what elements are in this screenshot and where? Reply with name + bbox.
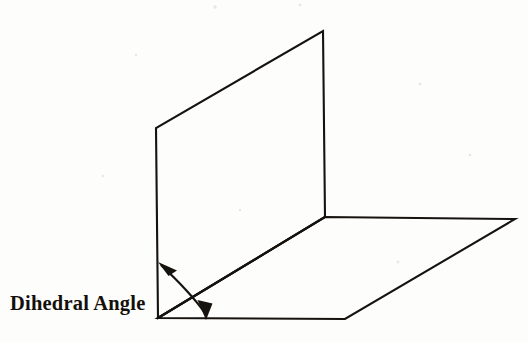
dihedral-angle-figure: Dihedral Angle [0, 0, 528, 343]
vertical-plane [156, 31, 325, 318]
scan-speckles [35, 4, 471, 301]
figure-caption: Dihedral Angle [10, 292, 146, 315]
dihedral-angle-diagram: Dihedral Angle [0, 0, 528, 343]
angle-arrow-head-upper-icon [158, 262, 177, 276]
common-edge-line [158, 217, 325, 318]
angle-arrow-head-lower-icon [198, 300, 213, 320]
